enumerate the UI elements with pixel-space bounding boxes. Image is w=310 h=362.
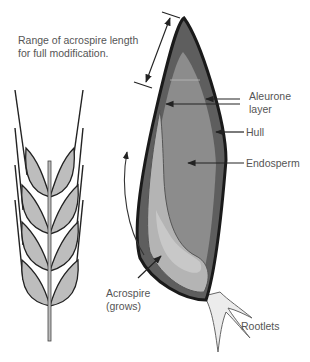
acrospire-label: Acrospire (grows) — [106, 287, 150, 313]
hull-label: Hull — [246, 126, 264, 139]
range-label: Range of acrospire length for full modif… — [18, 34, 138, 60]
aleurone-label: Aleurone layer — [249, 90, 291, 116]
wheat-ear-icon — [15, 90, 83, 341]
rootlets-label: Rootlets — [241, 320, 280, 333]
endosperm-label: Endosperm — [246, 157, 300, 170]
barley-grain — [137, 18, 226, 300]
